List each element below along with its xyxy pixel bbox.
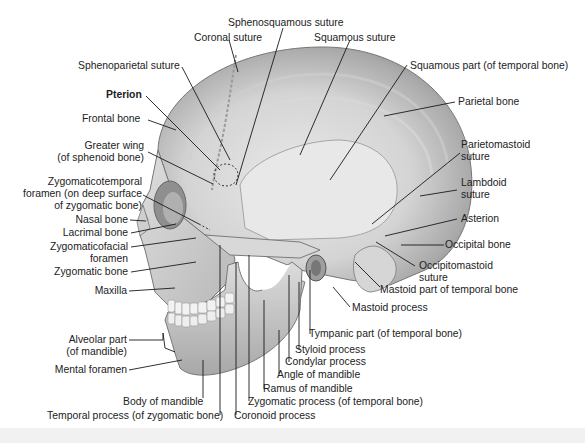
label-zygomaticotemporal-line3: of zygomatic bone) [10,200,142,212]
label-greater-wing-line2: (of sphenoid bone) [40,152,144,164]
label-lambdoid-line2: suture [461,189,490,201]
label-lacrimal-bone: Lacrimal bone [30,227,128,239]
label-frontal-bone: Frontal bone [82,113,140,125]
label-temporal-process: Temporal process (of zygomatic bone) [47,410,223,422]
label-coronoid-process: Coronoid process [234,410,315,422]
bottom-margin-strip [0,428,585,443]
label-zygomaticofacial-line2: foramen [20,253,128,265]
label-angle-of-mandible: Angle of mandible [277,369,360,381]
label-occipital-bone: Occipital bone [445,239,511,251]
label-mastoid-part: Mastoid part of temporal bone [380,284,518,296]
label-sphenoparietal-suture: Sphenoparietal suture [78,60,180,72]
label-parietomastoid-line1: Parietomastoid [461,139,530,151]
label-parietal-bone: Parietal bone [458,96,519,108]
label-zygomaticotemporal-line2: foramen (on deep surface [10,188,142,200]
label-greater-wing-line1: Greater wing [80,140,144,152]
skull-diagram: Sphenosquamous suture Coronal suture Squ… [0,0,585,443]
label-squamous-part: Squamous part (of temporal bone) [410,60,568,72]
label-alveolar-part-line2: (of mandible) [20,346,127,358]
label-zygomatic-process: Zygomatic process (of temporal bone) [248,396,423,408]
label-parietomastoid-line2: suture [461,151,490,163]
label-mastoid-process: Mastoid process [352,302,428,314]
label-zygomaticotemporal-line1: Zygomaticotemporal [10,176,142,188]
label-squamous-suture: Squamous suture [314,32,395,44]
label-tympanic-part: Tympanic part (of temporal bone) [309,328,462,340]
label-sphenosquamous-suture: Sphenosquamous suture [228,17,344,29]
label-body-of-mandible: Body of mandible [123,396,203,408]
label-ramus-of-mandible: Ramus of mandible [263,383,353,395]
label-mental-foramen: Mental foramen [20,364,127,376]
label-pterion: Pterion [106,89,142,101]
label-nasal-bone: Nasal bone [30,214,128,226]
label-zygomaticofacial-line1: Zygomaticofacial [20,241,128,253]
label-occipitomastoid-line1: Occipitomastoid [419,260,493,272]
label-asterion: Asterion [461,213,499,225]
label-occipitomastoid-line2: suture [419,272,448,284]
label-condylar-process: Condylar process [285,356,366,368]
label-styloid-process: Styloid process [295,344,365,356]
label-lambdoid-line1: Lambdoid [461,177,507,189]
label-coronal-suture: Coronal suture [194,32,262,44]
label-maxilla: Maxilla [20,285,127,297]
label-zygomatic-bone: Zygomatic bone [20,266,128,278]
label-alveolar-part-line1: Alveolar part [20,334,127,346]
